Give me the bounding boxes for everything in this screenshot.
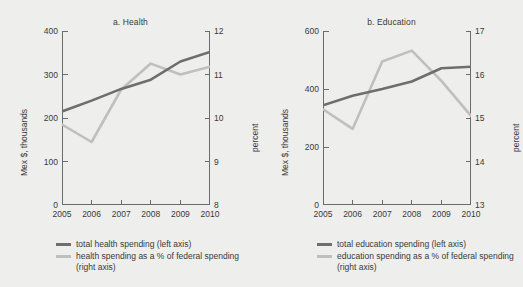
x-tick-label: 2005 xyxy=(53,209,72,219)
axis-right-spine-health xyxy=(205,31,210,205)
legend-swatch-line-icon xyxy=(56,243,71,246)
x-tick-label: 2007 xyxy=(112,209,131,219)
y2-tick-label: 15 xyxy=(475,113,484,123)
legend-label: total education spending (left axis) xyxy=(337,239,466,250)
axis-left-spine-health xyxy=(63,31,68,205)
x-tick-label: 2009 xyxy=(171,209,190,219)
y-axis-right-title-education: percent xyxy=(511,124,521,152)
x-tick-label: 2006 xyxy=(82,209,101,219)
legend-education: total education spending (left axis) edu… xyxy=(317,239,517,274)
y-tick-label: 200 xyxy=(44,113,58,123)
x-tick-label: 2007 xyxy=(373,209,392,219)
axis-bottom-spine-education xyxy=(323,200,471,205)
x-tick-label: 2006 xyxy=(343,209,362,219)
panel-education: b. Education 600 400 200 0 17 16 15 14 1… xyxy=(261,0,522,287)
x-axis-ticklabels-health: 2005 2006 2007 2008 2009 2010 xyxy=(62,209,210,221)
series-line-health-total xyxy=(62,52,210,112)
y2-tick-label: 12 xyxy=(214,26,223,36)
axis-left-spine-education xyxy=(324,31,329,205)
y2-tick-label: 17 xyxy=(475,26,484,36)
legend-label: total health spending (left axis) xyxy=(76,239,191,250)
legend-item: education spending as a % of federal spe… xyxy=(317,251,517,273)
series-line-education-total xyxy=(323,67,471,106)
x-tick-label: 2010 xyxy=(201,209,220,219)
y-tick-label: 300 xyxy=(44,70,58,80)
x-tick-label: 2005 xyxy=(314,209,333,219)
x-tick-label: 2010 xyxy=(462,209,481,219)
legend-item: total education spending (left axis) xyxy=(317,239,517,250)
axis-bottom-spine-health xyxy=(62,200,210,205)
legend-label: health spending as a % of federal spendi… xyxy=(76,251,256,273)
figure-two-panel-line-charts: a. Health 400 300 200 100 0 12 11 10 9 8… xyxy=(0,0,523,287)
y2-tick-label: 14 xyxy=(475,157,484,167)
y-tick-label: 600 xyxy=(305,26,319,36)
axis-right-spine-education xyxy=(466,31,471,205)
y-axis-right-title-health: percent xyxy=(250,124,260,152)
y2-tick-label: 10 xyxy=(214,113,223,123)
legend-item: total health spending (left axis) xyxy=(56,239,256,250)
y-tick-label: 400 xyxy=(305,84,319,94)
legend-swatch-line-icon xyxy=(56,255,71,258)
legend-label: education spending as a % of federal spe… xyxy=(337,251,517,273)
legend-health: total health spending (left axis) health… xyxy=(56,239,256,274)
plot-area-health xyxy=(62,31,210,205)
y-axis-left-title-education: Mex $, thousands xyxy=(280,109,290,176)
legend-swatch-line-icon xyxy=(317,243,332,246)
y2-tick-label: 16 xyxy=(475,70,484,80)
y2-tick-label: 9 xyxy=(214,157,219,167)
x-tick-label: 2009 xyxy=(432,209,451,219)
legend-swatch-line-icon xyxy=(317,255,332,258)
y-tick-label: 200 xyxy=(305,142,319,152)
x-tick-label: 2008 xyxy=(141,209,160,219)
legend-item: health spending as a % of federal spendi… xyxy=(56,251,256,273)
x-axis-ticklabels-education: 2005 2006 2007 2008 2009 2010 xyxy=(323,209,471,221)
y-tick-label: 400 xyxy=(44,26,58,36)
x-tick-label: 2008 xyxy=(402,209,421,219)
y-axis-left-title-health: Mex $, thousands xyxy=(19,109,29,176)
panel-health: a. Health 400 300 200 100 0 12 11 10 9 8… xyxy=(0,0,261,287)
y-tick-label: 100 xyxy=(44,157,58,167)
y2-tick-label: 11 xyxy=(214,70,223,80)
plot-area-education xyxy=(323,31,471,205)
series-line-education-percent xyxy=(323,51,471,129)
